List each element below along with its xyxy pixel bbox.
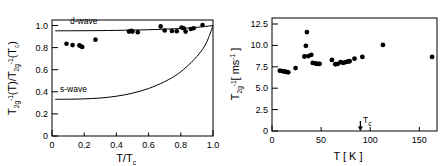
right-xtick-1: 50 (316, 135, 326, 145)
left-ylabel-t1-arg: (T)/ (6, 77, 18, 95)
left-plot-frame (52, 20, 213, 136)
right-ytick-4: 10.0 (250, 40, 268, 50)
data-point (303, 43, 308, 48)
data-point (304, 30, 309, 35)
s-wave-label: s-wave (60, 84, 87, 94)
left-xlabel-main: T/T (116, 152, 133, 164)
svg-text:T/Tc: T/Tc (116, 152, 137, 166)
svg-text:T2g-1(T)/T2g-1(Tc): T2g-1(T)/T2g-1(Tc) (6, 41, 21, 115)
d-wave-label: d-wave (70, 16, 98, 26)
data-point (309, 52, 314, 57)
data-point (191, 26, 196, 31)
data-point (286, 70, 291, 75)
data-point (317, 61, 322, 66)
data-point (352, 56, 357, 61)
data-point (170, 29, 175, 34)
left-ylabel-t2-arg: (T (6, 48, 18, 59)
data-point (162, 28, 167, 33)
data-point (64, 41, 69, 46)
data-point (174, 29, 179, 34)
data-point (200, 23, 205, 28)
left-panel-svg: 0 0.2 0.4 0.6 0.8 1.0 0 0.2 0. (0, 0, 224, 166)
left-xtick-5: 1.0 (207, 140, 220, 150)
right-ylabel-unit-open: [ ms (229, 59, 241, 80)
svg-text:T2g-1[ ms-1 ]: T2g-1[ ms-1 ] (229, 48, 244, 100)
data-point (136, 30, 141, 35)
right-y-axis-title: T2g-1[ ms-1 ] (229, 48, 244, 100)
left-panel: 0 0.2 0.4 0.6 0.8 1.0 0 0.2 0. (0, 0, 224, 166)
right-ytick-1: 2.5 (255, 105, 268, 115)
right-ytick-5: 12.5 (250, 19, 268, 29)
left-x-axis-title: T/Tc (116, 152, 137, 166)
left-ytick-5: 1.0 (35, 21, 48, 31)
left-ylabel-t2-sub: 2g (13, 64, 21, 72)
data-point (430, 55, 435, 60)
right-plot-frame (272, 18, 437, 131)
left-xtick-2: 0.4 (110, 140, 123, 150)
left-ytick-1: 0.2 (35, 109, 48, 119)
data-point (347, 59, 352, 64)
data-point (70, 43, 75, 48)
data-point (360, 55, 365, 60)
right-xtick-0: 0 (269, 135, 274, 145)
data-point (130, 29, 135, 34)
right-ytick-2: 5.0 (255, 83, 268, 93)
right-ytick-3: 7.5 (255, 62, 268, 72)
data-point (293, 66, 298, 71)
left-xtick-4: 0.8 (175, 140, 188, 150)
data-point (93, 37, 98, 42)
data-point (183, 29, 188, 34)
right-ylabel-t-sub: 2g (236, 86, 244, 94)
left-ylabel-t2-close: ) (6, 41, 18, 45)
data-point (80, 45, 85, 50)
left-ytick-0: 0 (43, 131, 48, 141)
left-ytick-2: 0.4 (35, 87, 48, 97)
left-ytick-3: 0.6 (35, 65, 48, 75)
left-xtick-0: 0 (49, 140, 54, 150)
right-panel-svg: 0 2.5 5.0 7.5 10.0 12.5 0 50 100 150 (224, 0, 447, 166)
data-point (158, 24, 163, 29)
right-xtick-2: 100 (363, 135, 378, 145)
right-ytick-0: 0 (263, 126, 268, 136)
left-y-axis-title: T2g-1(T)/T2g-1(Tc) (6, 41, 21, 115)
left-xtick-1: 0.2 (78, 140, 91, 150)
left-ylabel-t1-sub: 2g (13, 101, 21, 109)
right-ylabel-unit-close: ] (229, 48, 241, 54)
left-ytick-4: 0.8 (35, 43, 48, 53)
data-point (381, 43, 386, 48)
right-x-axis-title: T [ K ] (333, 150, 362, 162)
right-panel: 0 2.5 5.0 7.5 10.0 12.5 0 50 100 150 (224, 0, 447, 166)
left-xtick-3: 0.6 (142, 140, 155, 150)
figure-container: 0 0.2 0.4 0.6 0.8 1.0 0 0.2 0. (0, 0, 447, 166)
right-xtick-3: 150 (412, 135, 427, 145)
data-point (330, 58, 335, 63)
left-xlabel-sub: c (133, 159, 137, 166)
